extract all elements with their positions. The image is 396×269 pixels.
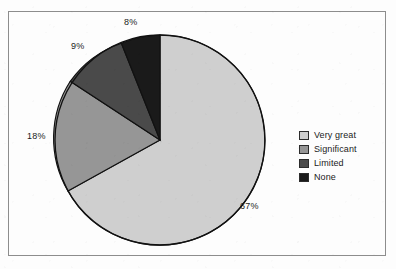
legend-swatch-icon-significant [299,145,309,154]
legend-item-very-great[interactable]: Very great [299,128,357,142]
legend-label-none: None [314,172,336,182]
legend-item-none[interactable]: None [299,170,357,184]
legend-label-significant: Significant [314,144,357,154]
legend-item-limited[interactable]: Limited [299,156,357,170]
legend-item-significant[interactable]: Significant [299,142,357,156]
pie-label-very-great: 67% [240,201,259,211]
pie-label-none: 8% [124,17,137,27]
pie-label-significant: 18% [27,131,46,141]
legend-swatch-icon-limited [299,159,309,168]
pie-chart-screenshot: 8% 9% 18% 67% Very great Significant Lim… [0,0,396,269]
chart-legend: Very great Significant Limited None [299,128,357,184]
legend-label-limited: Limited [314,158,344,168]
legend-label-very-great: Very great [314,130,356,140]
legend-swatch-icon-none [299,173,309,182]
legend-swatch-icon-very-great [299,131,309,140]
pie-label-limited: 9% [71,41,84,51]
